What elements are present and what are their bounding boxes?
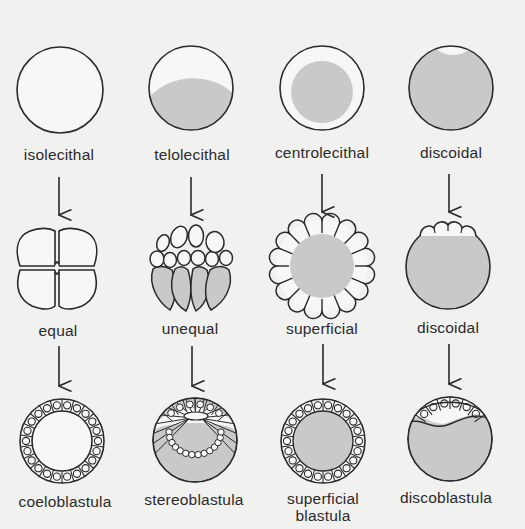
cleavage-unequal [150,224,233,311]
label-blastula-superficial: superficialblastula [258,490,388,524]
cleavage-discoidal [406,222,490,309]
label-egg-discoidal: discoidal [386,144,516,161]
egg-isolecithal [17,47,103,133]
label-blastula-coeloblastula: coeloblastula [0,493,130,510]
egg-discoidal [409,40,493,130]
down-arrow-icon [59,344,449,386]
label-egg-isolecithal: isolecithal [0,146,124,163]
blastula-stereoblastula [151,396,239,482]
cleavage-equal [17,228,97,309]
cleavage-superficial [269,213,374,318]
diagram-canvas [0,0,525,529]
label-cleavage-discoidal: discoidal [383,319,513,336]
egg-centrolecithal [280,46,364,130]
down-arrow-icon [59,174,449,215]
label-cleavage-equal: equal [0,322,123,339]
blastula-coeloblastula [20,399,104,483]
label-egg-centrolecithal: centrolecithal [257,144,387,161]
embryology-diagram: isolecithal telolecithal centrolecithal … [0,0,525,529]
label-cleavage-unequal: unequal [125,320,255,337]
blastula-discoblastula [405,380,495,481]
label-cleavage-superficial: superficial [257,320,387,337]
label-blastula-discoblastula: discoblastula [381,489,511,506]
label-egg-telolecithal: telolecithal [127,146,257,163]
egg-telolecithal [145,46,237,140]
blastula-superficial [281,399,365,483]
label-blastula-stereoblastula: stereoblastula [129,491,259,508]
